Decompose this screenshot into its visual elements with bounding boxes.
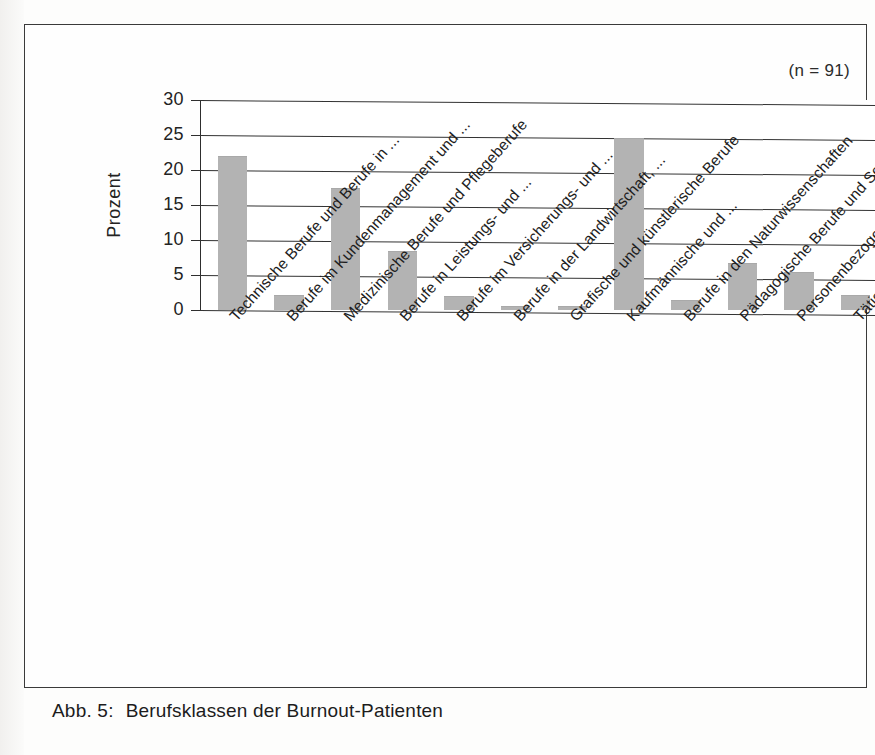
figure-frame: (n = 91) Prozent 051015202530 Technische…	[24, 24, 867, 688]
y-tick-label-25: 25	[163, 124, 184, 145]
figure-page: (n = 91) Prozent 051015202530 Technische…	[0, 0, 875, 755]
y-tick-10	[191, 240, 200, 241]
y-tick-label-30: 30	[163, 89, 184, 110]
caption-text: Berufsklassen der Burnout-Patienten	[126, 700, 444, 721]
y-tick-label-5: 5	[174, 264, 184, 285]
page-edge-shadow	[0, 0, 24, 755]
sample-size-annotation: (n = 91)	[789, 61, 850, 81]
bar-8	[614, 138, 643, 310]
y-tick-label-0: 0	[174, 299, 184, 320]
y-tick-label-10: 10	[163, 229, 184, 250]
y-tick-20	[191, 170, 200, 171]
x-axis-category-labels: Technische Berufe und Berufe in ...Beruf…	[200, 313, 875, 683]
y-tick-25	[191, 135, 200, 136]
y-tick-label-15: 15	[163, 194, 184, 215]
y-tick-label-20: 20	[163, 159, 184, 180]
y-tick-0	[191, 310, 200, 311]
caption-number: Abb. 5:	[52, 700, 114, 721]
y-axis-title: Prozent	[104, 172, 125, 238]
y-tick-5	[191, 275, 200, 276]
y-tick-30	[191, 100, 200, 101]
y-tick-15	[191, 205, 200, 206]
bar-1	[218, 156, 247, 310]
figure-caption: Abb. 5:Berufsklassen der Burnout-Patient…	[52, 700, 443, 722]
